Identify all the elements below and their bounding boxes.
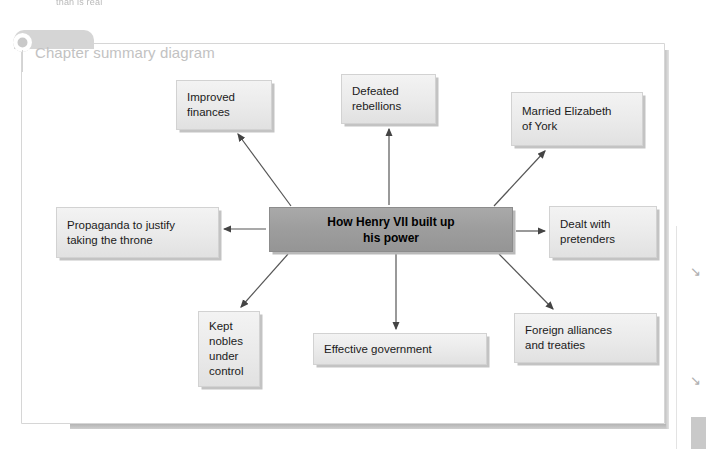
node-label: Married Elizabeth of York [522, 104, 611, 134]
scan-artifact-mark: ↘ [690, 374, 701, 387]
diagram-node-effective-government[interactable]: Effective government [313, 333, 487, 365]
node-label: Improved finances [187, 90, 235, 120]
center-node-label: How Henry VII built up his power [327, 214, 454, 246]
node-label: Kept nobles under control [209, 319, 244, 379]
node-label: Dealt with pretenders [560, 217, 615, 247]
node-label: Defeated rebellions [352, 84, 401, 114]
arrow-center-to-finances [238, 134, 291, 206]
diagram-node-dealt-with-pretenders[interactable]: Dealt with pretenders [549, 206, 657, 258]
node-label: Propaganda to justify taking the throne [67, 218, 175, 248]
diagram-node-propaganda[interactable]: Propaganda to justify taking the throne [56, 207, 219, 258]
chapter-summary-diagram: Improved finances Defeated rebellions Ma… [0, 0, 706, 449]
arrow-center-to-elizabeth [494, 151, 545, 206]
diagram-node-kept-nobles-under-control[interactable]: Kept nobles under control [198, 311, 260, 387]
arrow-center-to-nobles [241, 254, 288, 307]
diagram-node-improved-finances[interactable]: Improved finances [176, 80, 272, 130]
node-label: Effective government [324, 342, 432, 357]
page-edge-line [676, 226, 677, 449]
node-label: Foreign alliances and treaties [525, 323, 612, 353]
arrow-center-to-foreign [499, 254, 553, 309]
diagram-node-foreign-alliances[interactable]: Foreign alliances and treaties [514, 313, 657, 363]
page-corner-shadow [691, 417, 706, 449]
diagram-node-married-elizabeth-of-york[interactable]: Married Elizabeth of York [511, 92, 643, 146]
diagram-node-center[interactable]: How Henry VII built up his power [269, 207, 513, 252]
diagram-node-defeated-rebellions[interactable]: Defeated rebellions [341, 74, 436, 124]
scan-artifact-mark: ↘ [690, 265, 701, 278]
